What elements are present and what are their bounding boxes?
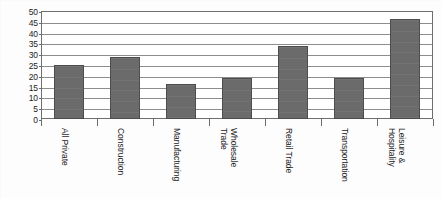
bar-slot — [265, 11, 321, 119]
bar[interactable] — [390, 19, 419, 119]
bar-slot — [41, 11, 97, 119]
x-axis-tick-mark — [377, 119, 378, 126]
y-axis-tick-label: 25 — [29, 62, 38, 71]
y-axis-tick-label: 5 — [33, 105, 38, 114]
x-axis-tick-mark — [321, 119, 322, 126]
bar[interactable] — [166, 84, 195, 119]
chart-page: 50454035302520151050 All PrivateConstruc… — [0, 0, 442, 199]
y-axis-tick-label: 40 — [29, 29, 38, 38]
x-axis-tick-mark — [41, 119, 42, 126]
y-axis-tick-label: 20 — [29, 73, 38, 82]
bar-chart: 50454035302520151050 All PrivateConstruc… — [0, 0, 442, 199]
y-axis-tick-label: 15 — [29, 83, 38, 92]
y-axis-tick-label: 10 — [29, 94, 38, 103]
y-axis-tick-label: 30 — [29, 51, 38, 60]
x-axis-category-label-line: Trade — [218, 128, 228, 167]
x-axis-label-slot: Construction — [97, 126, 153, 196]
bar-slot — [153, 11, 209, 119]
x-axis-tick-mark — [153, 119, 154, 126]
x-axis-category-label: Transportation — [340, 128, 350, 182]
x-axis-label-slot: Transportation — [321, 126, 377, 196]
x-axis-category-label-line: Construction — [116, 128, 126, 175]
x-axis-category-label-line: All Private — [60, 128, 70, 166]
bar[interactable] — [334, 78, 363, 119]
x-axis-category-label: WholesaleTrade — [218, 128, 237, 167]
bar-slot — [209, 11, 265, 119]
x-axis-label-slot: Manufacturing — [153, 126, 209, 196]
x-axis-label-slot: Leisure &Hospitality — [377, 126, 433, 196]
x-axis-category-label: Retail Trade — [284, 128, 294, 173]
x-axis-tick-mark — [97, 119, 98, 126]
x-axis-labels: All PrivateConstructionManufacturingWhol… — [41, 126, 433, 196]
x-axis-category-label: Construction — [116, 128, 126, 175]
bar[interactable] — [222, 78, 251, 119]
bar-slot — [377, 11, 433, 119]
x-axis-tick-mark — [209, 119, 210, 126]
x-axis-label-slot: Retail Trade — [265, 126, 321, 196]
x-axis-category-label-line: Transportation — [340, 128, 350, 182]
x-axis-label-slot: WholesaleTrade — [209, 126, 265, 196]
x-axis-label-slot: All Private — [41, 126, 97, 196]
x-axis-category-label-line: Manufacturing — [172, 128, 182, 181]
x-axis-ticks — [41, 119, 433, 126]
bar[interactable] — [110, 57, 139, 119]
x-axis-category-label: Leisure &Hospitality — [386, 128, 405, 167]
bar-slot — [321, 11, 377, 119]
y-axis-tick-label: 0 — [33, 116, 38, 125]
x-axis-category-label-line: Leisure & — [396, 128, 406, 167]
y-axis-tick-label: 50 — [29, 8, 38, 17]
y-axis-tick-label: 35 — [29, 40, 38, 49]
x-axis-tick-mark — [433, 119, 434, 126]
x-axis-category-label: All Private — [60, 128, 70, 166]
y-axis-tick-label: 45 — [29, 19, 38, 28]
bar-series — [41, 11, 433, 119]
bar[interactable] — [54, 65, 83, 119]
x-axis-category-label-line: Wholesale — [228, 128, 238, 167]
x-axis-tick-mark — [265, 119, 266, 126]
bar[interactable] — [278, 46, 307, 119]
x-axis-category-label: Manufacturing — [172, 128, 182, 181]
x-axis-category-label-line: Retail Trade — [284, 128, 294, 173]
bar-slot — [97, 11, 153, 119]
x-axis-category-label-line: Hospitality — [386, 128, 396, 167]
